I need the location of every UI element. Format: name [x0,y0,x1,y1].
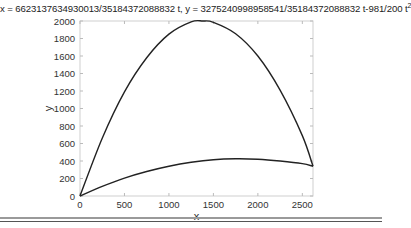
y-tick-label: 400 [59,156,75,167]
x-tick-label: 1500 [203,199,224,210]
y-tick-label: 200 [59,173,75,184]
x-tick-label: 0 [77,199,82,210]
y-tick-label: 2000 [54,16,75,27]
trajectory-curve [80,21,313,196]
x-tick-label: 500 [117,199,133,210]
chart-title-exponent: 2 [408,2,411,9]
y-tick-label: 1400 [54,68,75,79]
y-axis-label: y [42,105,54,111]
y-tick-label: 0 [70,191,75,202]
y-tick-label: 1000 [54,103,75,114]
axes-box [80,21,313,196]
y-tick-label: 1200 [54,86,75,97]
y-tick-label: 800 [59,121,75,132]
divider-line [0,221,382,222]
y-tick-label: 600 [59,138,75,149]
divider-line [0,217,382,219]
y-tick-label: 1600 [54,51,75,62]
x-tick-label: 2500 [292,199,313,210]
x-tick-label: 2000 [247,199,268,210]
y-tick-label: 1800 [54,33,75,44]
x-tick-label: 1000 [158,199,179,210]
trajectory-curve [80,159,313,196]
